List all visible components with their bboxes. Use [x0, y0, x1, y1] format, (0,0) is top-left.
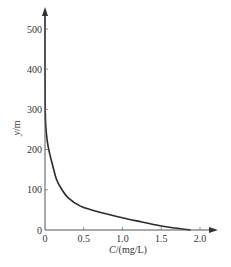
- y-tick-label: 300: [27, 104, 42, 115]
- y-tick-label: 200: [27, 144, 42, 155]
- plot-area: [45, 13, 191, 230]
- y-tick-label: 100: [27, 184, 42, 195]
- concentration-curve: [45, 13, 191, 230]
- x-axis-arrow-icon: [209, 227, 218, 233]
- y-tick-label: 500: [27, 24, 42, 35]
- y-axis-arrow-icon: [42, 7, 48, 16]
- x-tick-label: 0.5: [78, 233, 91, 244]
- y-tick-label: 0: [37, 225, 42, 236]
- concentration-depth-chart: 00.51.01.52.0 0100200300400500 C/(mg/L) …: [0, 0, 231, 267]
- y-tick-label: 400: [27, 64, 42, 75]
- x-tick-label: 1.0: [116, 233, 129, 244]
- y-axis-label: y/m: [11, 120, 22, 136]
- x-tick-label: 1.5: [155, 233, 168, 244]
- x-tick-label: 2.0: [194, 233, 207, 244]
- x-tick-label: 0: [43, 233, 48, 244]
- x-axis-label: C/(mg/L): [109, 244, 147, 256]
